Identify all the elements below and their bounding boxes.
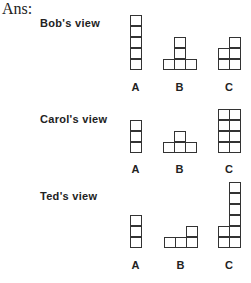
- block-cell: [229, 193, 241, 204]
- block-cell: [174, 37, 186, 48]
- figure-label: C: [222, 259, 236, 271]
- view-title: Carol's view: [40, 113, 107, 125]
- view-title: Ted's view: [40, 190, 97, 202]
- block-cell: [229, 131, 241, 142]
- block-cell: [185, 142, 197, 153]
- figure-label: C: [222, 81, 236, 93]
- block-cell: [186, 226, 198, 237]
- figure-label: A: [129, 81, 143, 93]
- block-cell: [229, 59, 241, 70]
- block-cell: [130, 15, 142, 26]
- block-cell: [174, 131, 186, 142]
- figure-label: A: [129, 163, 143, 175]
- block-cell: [229, 142, 241, 153]
- block-cell: [130, 215, 142, 226]
- block-cell: [229, 215, 241, 226]
- block-cell: [229, 109, 241, 120]
- figure-label: B: [174, 259, 188, 271]
- block-cell: [130, 237, 142, 248]
- view-title: Bob's view: [40, 17, 100, 29]
- figure-label: B: [173, 163, 187, 175]
- block-cell: [130, 37, 142, 48]
- figure-label: C: [222, 163, 236, 175]
- answer-label: Ans:: [2, 0, 32, 18]
- block-cell: [130, 26, 142, 37]
- block-cell: [130, 131, 142, 142]
- figure-label: A: [129, 259, 143, 271]
- block-cell: [229, 48, 241, 59]
- block-cell: [229, 237, 241, 248]
- block-cell: [130, 48, 142, 59]
- block-cell: [130, 59, 142, 70]
- block-cell: [130, 120, 142, 131]
- block-cell: [186, 237, 198, 248]
- block-cell: [130, 142, 142, 153]
- block-cell: [229, 182, 241, 193]
- block-cell: [130, 226, 142, 237]
- block-cell: [229, 37, 241, 48]
- figure-label: B: [173, 81, 187, 93]
- block-cell: [229, 226, 241, 237]
- block-cell: [229, 120, 241, 131]
- block-cell: [174, 48, 186, 59]
- block-cell: [229, 204, 241, 215]
- block-cell: [185, 59, 197, 70]
